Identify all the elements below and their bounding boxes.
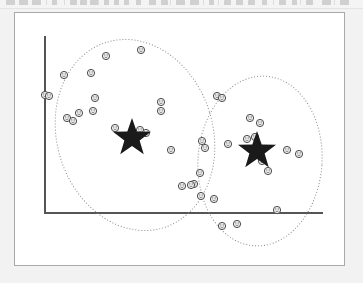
cluster-boundary-ellipses bbox=[32, 19, 328, 250]
toolbar-icon-16[interactable] bbox=[209, 0, 214, 5]
cluster-2-points-marker-19 bbox=[233, 220, 240, 227]
cluster-1-points-marker-14 bbox=[111, 124, 118, 131]
cluster-1-points-marker-2 bbox=[45, 92, 52, 99]
cluster-2-points-marker-10 bbox=[256, 119, 263, 126]
cluster-1-centroid-star bbox=[113, 118, 151, 154]
toolbar-separator-7 bbox=[273, 0, 274, 5]
toolbar-icon-21[interactable] bbox=[279, 0, 286, 5]
toolbar-icon-24[interactable] bbox=[322, 0, 331, 5]
toolbar-icon-18[interactable] bbox=[236, 0, 243, 5]
toolbar-separator-3 bbox=[98, 0, 99, 5]
scatter-plot-svg bbox=[15, 13, 345, 266]
cluster-1-points-marker-8 bbox=[75, 109, 82, 116]
toolbar-icon-19[interactable] bbox=[248, 0, 255, 5]
cluster-2-points-marker-5 bbox=[210, 195, 217, 202]
cluster-2-points-marker-18 bbox=[218, 222, 225, 229]
centroid-star-group bbox=[113, 118, 276, 167]
toolbar-icon-1[interactable] bbox=[6, 0, 15, 5]
cluster-2-points-marker-1 bbox=[198, 137, 205, 144]
cluster-1-points-marker-3 bbox=[60, 71, 67, 78]
toolbar-icon-2[interactable] bbox=[19, 0, 28, 5]
cluster-1-points-marker-10 bbox=[89, 107, 96, 114]
cluster-1-points-marker-13 bbox=[157, 107, 164, 114]
toolbar-icon-12[interactable] bbox=[149, 0, 156, 5]
toolbar-icon-14[interactable] bbox=[176, 0, 185, 5]
cluster-2-points-marker-2 bbox=[201, 144, 208, 151]
cluster-1-points-marker-5 bbox=[102, 52, 109, 59]
cluster-1-points-marker-17 bbox=[167, 146, 174, 153]
toolbar-icon-23[interactable] bbox=[306, 0, 313, 5]
cluster-2-point-group bbox=[187, 92, 302, 229]
toolbar-icon-9[interactable] bbox=[114, 0, 119, 5]
toolbar-icon-13[interactable] bbox=[161, 0, 168, 5]
toolbar-icon-3[interactable] bbox=[32, 0, 41, 5]
cluster-1-points-marker-7 bbox=[69, 117, 76, 124]
cluster-2-points-marker-20 bbox=[187, 181, 194, 188]
toolbar-icon-6[interactable] bbox=[80, 0, 87, 5]
cluster-2-points-marker-16 bbox=[295, 150, 302, 157]
document-page-panel bbox=[14, 12, 345, 266]
toolbar-icon-22[interactable] bbox=[292, 0, 297, 5]
cluster-2-points-marker-9 bbox=[246, 114, 253, 121]
cluster-2-points-marker-11 bbox=[243, 135, 250, 142]
cluster-2-points-marker-7 bbox=[218, 94, 225, 101]
toolbar-icon-20[interactable] bbox=[262, 0, 267, 5]
cluster-1-points-marker-11 bbox=[137, 46, 144, 53]
cluster-1-points-marker-9 bbox=[91, 94, 98, 101]
toolbar-icon-5[interactable] bbox=[70, 0, 77, 5]
cluster-2-centroid-star bbox=[238, 131, 276, 167]
toolbar-icon-15[interactable] bbox=[190, 0, 199, 5]
toolbar-icon-17[interactable] bbox=[224, 0, 231, 5]
cluster-1-points-marker-12 bbox=[157, 98, 164, 105]
cluster-2-points-marker-4 bbox=[197, 192, 204, 199]
screenshot-root bbox=[0, 0, 363, 283]
toolbar-icon-25[interactable] bbox=[340, 0, 349, 5]
toolbar-icon-11[interactable] bbox=[136, 0, 141, 5]
toolbar-separator-6 bbox=[218, 0, 219, 5]
toolbar-icon-10[interactable] bbox=[124, 0, 129, 5]
cluster-2-points-marker-15 bbox=[283, 146, 290, 153]
cluster-2-points-marker-3 bbox=[196, 169, 203, 176]
toolbar-underline bbox=[0, 8, 363, 9]
toolbar-separator-4 bbox=[170, 0, 171, 5]
toolbar-separator-8 bbox=[300, 0, 301, 5]
toolbar-separator-5 bbox=[203, 0, 204, 5]
cluster-2-points-marker-17 bbox=[273, 206, 280, 213]
toolbar-separator-2 bbox=[64, 0, 65, 5]
toolbar-icon-8[interactable] bbox=[104, 0, 109, 5]
cluster-1-point-group bbox=[41, 46, 197, 189]
cluster-1-points-marker-18 bbox=[178, 182, 185, 189]
scatter-plot-figure bbox=[15, 13, 345, 266]
toolbar-separator-9 bbox=[334, 0, 335, 5]
cluster-2-points-marker-14 bbox=[264, 167, 271, 174]
cluster-2-points-marker-8 bbox=[224, 140, 231, 147]
toolbar-icon-4[interactable] bbox=[52, 0, 57, 5]
toolbar-strip[interactable] bbox=[0, 0, 363, 9]
toolbar-separator-1 bbox=[46, 0, 47, 5]
cluster-1-points-marker-4 bbox=[87, 69, 94, 76]
